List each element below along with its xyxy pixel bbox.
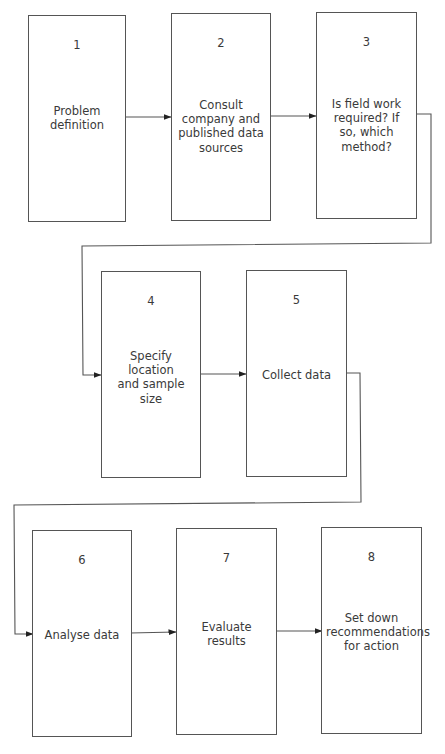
step-label: Problem definition xyxy=(33,104,121,132)
arrow-6-to-7 xyxy=(130,632,176,633)
step-box-2: 2 Consult company and published data sou… xyxy=(171,13,271,221)
step-label: Collect data xyxy=(251,368,342,382)
step-number: 2 xyxy=(172,36,270,50)
step-box-7: 7 Evaluate results xyxy=(176,528,277,735)
step-number: 5 xyxy=(247,293,346,307)
step-label: Is field work required? If so, which met… xyxy=(321,97,412,154)
step-number: 3 xyxy=(317,35,416,49)
step-label: Consult company and published data sourc… xyxy=(176,98,266,155)
step-number: 4 xyxy=(102,294,200,308)
step-number: 7 xyxy=(177,551,276,565)
step-box-6: 6 Analyse data xyxy=(32,530,132,737)
step-number: 1 xyxy=(29,38,125,52)
step-box-5: 5 Collect data xyxy=(246,270,347,477)
step-box-8: 8 Set down recommendations for action xyxy=(321,527,422,734)
step-label: Analyse data xyxy=(37,628,127,642)
step-box-1: 1 Problem definition xyxy=(28,15,126,222)
step-label: Set down recommendations for action xyxy=(326,611,417,654)
step-label: Specify location and sample size xyxy=(106,349,196,406)
step-box-4: 4 Specify location and sample size xyxy=(101,271,201,478)
step-label: Evaluate results xyxy=(181,620,272,648)
flowchart-canvas: 1 Problem definition 2 Consult company a… xyxy=(0,0,445,754)
step-number: 6 xyxy=(33,553,131,567)
step-box-3: 3 Is field work required? If so, which m… xyxy=(316,12,417,219)
step-number: 8 xyxy=(322,550,421,564)
